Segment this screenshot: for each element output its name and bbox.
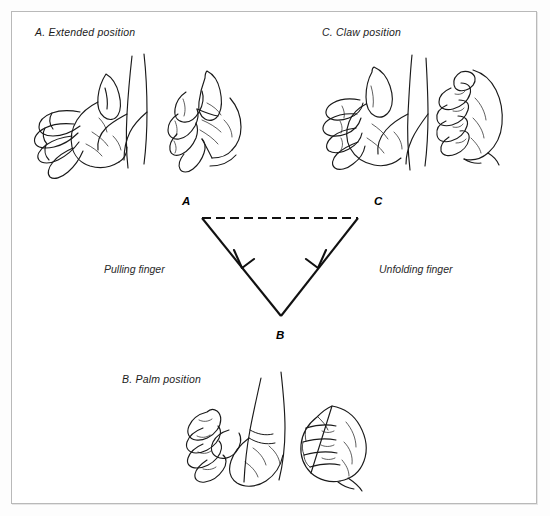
palm-fist-lateral-illustration [165, 370, 305, 490]
arrowhead-left [234, 250, 254, 268]
figure-root: A. Extended position [0, 0, 550, 516]
vertex-label-c: C [374, 195, 382, 207]
edge-label-unfolding-finger: Unfolding finger [379, 263, 453, 275]
edge-label-pulling-finger: Pulling finger [104, 263, 165, 275]
vertex-label-a: A [182, 195, 190, 207]
vertex-label-b: B [276, 329, 284, 341]
palm-fist-frontal-illustration [288, 398, 393, 493]
arrowhead-right [306, 250, 326, 268]
